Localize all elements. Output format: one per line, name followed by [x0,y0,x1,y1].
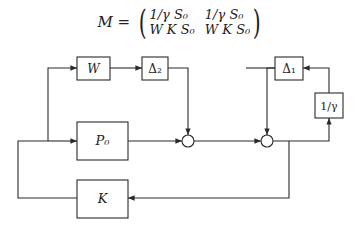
k-output-wire [18,141,77,198]
sum-junction-1 [182,135,194,147]
delta2-label: Δ₂ [148,62,162,76]
w-label: W [87,62,101,76]
invgamma-to-delta1-wire [303,68,329,93]
sum2-to-invgamma-wire [273,118,329,141]
delta2-to-sum1-wire [168,68,188,135]
block-diagram: M = ( 1/γ S₀ 1/γ S₀ W K S₀ W K S₀ ) [0,0,361,232]
sum-junction-2 [261,135,273,147]
w-input-wire [48,68,77,141]
inv-gamma-label: 1/γ [320,100,338,113]
p0-label: P₀ [95,133,111,148]
k-label: K [97,191,109,206]
feedback-to-k-wire [128,141,289,198]
delta1-to-sum2-wire [267,68,275,135]
delta1-label: Δ₁ [282,62,295,76]
diagram-canvas: W Δ₂ P₀ K Δ₁ 1/γ [0,0,361,232]
